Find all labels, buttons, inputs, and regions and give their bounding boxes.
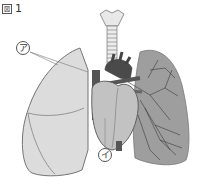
heart	[92, 81, 138, 150]
callout-b: イ	[98, 148, 112, 162]
lung-right	[22, 48, 88, 176]
callout-a-leader-1	[30, 52, 58, 65]
callout-a: ア	[16, 41, 30, 55]
descending-aorta	[116, 141, 122, 151]
lungs-heart-diagram	[0, 0, 200, 192]
